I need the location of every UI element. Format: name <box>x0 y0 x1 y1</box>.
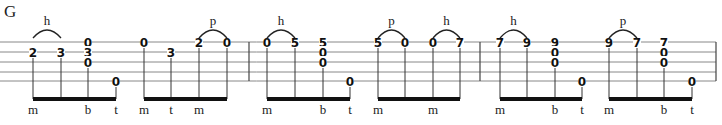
finger-label: b <box>320 102 327 117</box>
fret-number: 0 <box>660 56 668 70</box>
finger-label: m <box>262 102 272 117</box>
beam <box>267 97 350 101</box>
fret-number: 3 <box>167 46 175 60</box>
fret-number: 9 <box>605 36 613 50</box>
slur-label: h <box>443 13 450 28</box>
fret-number: 0 <box>346 75 354 89</box>
fret-number: 0 <box>223 36 231 50</box>
beam <box>378 97 460 101</box>
fret-number: 7 <box>456 36 464 50</box>
finger-label: m <box>604 102 614 117</box>
finger-label: t <box>690 102 694 117</box>
finger-label: b <box>85 102 92 117</box>
finger-label: t <box>580 102 584 117</box>
fret-number: 0 <box>551 56 559 70</box>
fret-number: 2 <box>195 36 203 50</box>
finger-label: t <box>169 102 173 117</box>
slur-label: h <box>278 13 285 28</box>
fret-number: 0 <box>429 36 437 50</box>
fret-number: 0 <box>688 75 696 89</box>
slur-label: p <box>620 13 627 28</box>
finger-label: t <box>348 102 352 117</box>
fret-number: 0 <box>578 75 586 89</box>
slur-label: p <box>388 13 395 28</box>
beam <box>33 97 116 101</box>
finger-label: m <box>495 102 505 117</box>
fret-number: 5 <box>374 36 382 50</box>
finger-label: m <box>28 102 38 117</box>
finger-label: m <box>194 102 204 117</box>
finger-label: m <box>139 102 149 117</box>
finger-label: b <box>661 102 668 117</box>
fret-number: 2 <box>29 46 37 60</box>
beam <box>500 97 582 101</box>
finger-label: t <box>114 102 118 117</box>
fret-number: 0 <box>263 36 271 50</box>
fret-number: 7 <box>633 36 641 50</box>
fret-number: 0 <box>401 36 409 50</box>
slur-arc <box>33 30 61 38</box>
finger-label: m <box>428 102 438 117</box>
fret-number: 3 <box>57 46 65 60</box>
fret-number: 0 <box>84 56 92 70</box>
fret-number: 0 <box>319 56 327 70</box>
beam <box>609 97 692 101</box>
fret-number: 9 <box>523 36 531 50</box>
fret-number: 5 <box>291 36 299 50</box>
slur-label: h <box>510 13 517 28</box>
banjo-tablature: 2m3030b0th0m3t2m0p0m5500b0th5m00m7ph7m99… <box>0 0 722 125</box>
slur-label: p <box>210 13 217 28</box>
slur-label: h <box>44 13 51 28</box>
finger-label: m <box>373 102 383 117</box>
beam <box>144 97 227 101</box>
fret-number: 0 <box>112 75 120 89</box>
fret-number: 7 <box>496 36 504 50</box>
finger-label: b <box>552 102 559 117</box>
fret-number: 0 <box>140 36 148 50</box>
